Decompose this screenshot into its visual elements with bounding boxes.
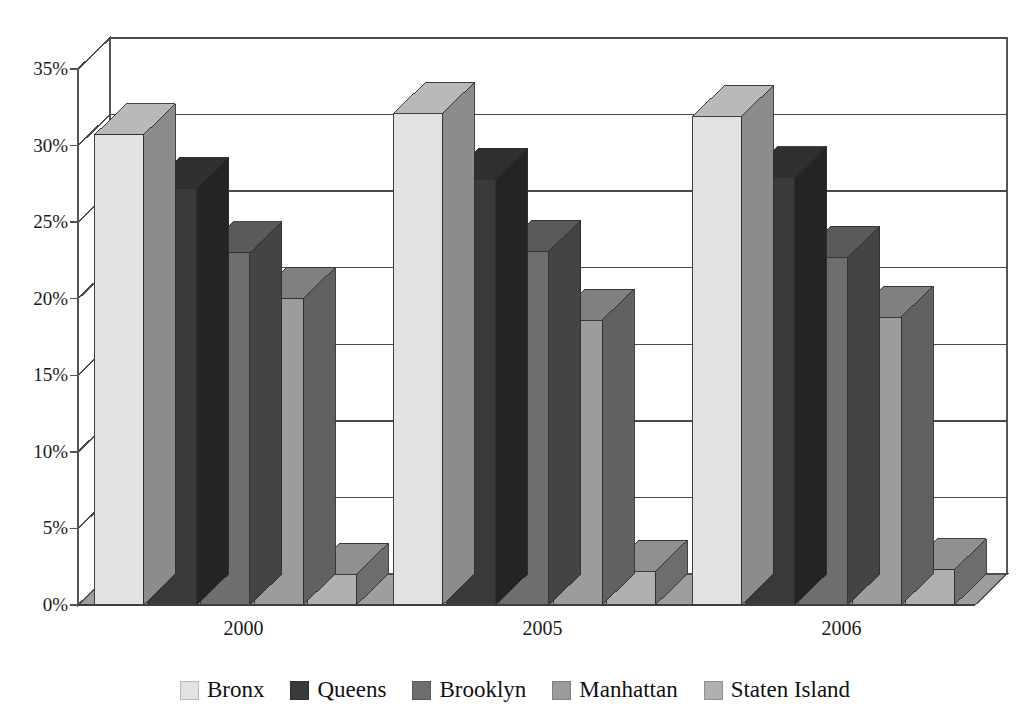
bar-side-face	[549, 220, 581, 605]
bar-side-face	[143, 104, 175, 605]
legend-item-queens[interactable]: Queens	[290, 677, 386, 703]
legend-item-manhattan[interactable]: Manhattan	[552, 677, 677, 703]
bar-side-face	[303, 268, 335, 605]
y-axis-tick-label: 25%	[6, 212, 68, 231]
y-axis-tick-label: 0%	[6, 595, 68, 614]
y-axis-labels: 35%30%25%20%15%10%5%0%	[0, 0, 68, 660]
bar-front-face	[94, 135, 143, 605]
bar-front-face	[393, 113, 442, 605]
x-axis-tick-label: 2000	[164, 616, 324, 640]
bar-bronx-2000	[94, 104, 175, 605]
bar-side-face	[496, 148, 528, 605]
bar-side-face	[197, 157, 229, 605]
bar-bronx-2005	[393, 82, 474, 605]
y-axis-tick-label: 5%	[6, 518, 68, 537]
chart-canvas	[0, 0, 1030, 660]
chart-legend: BronxQueensBrooklynManhattanStaten Islan…	[0, 668, 1030, 712]
y-axis-tick-label: 30%	[6, 136, 68, 155]
bar-side-face	[741, 85, 773, 605]
bar-front-face	[692, 116, 741, 605]
bar-side-face	[442, 82, 474, 605]
x-axis-labels: 200020052006	[0, 616, 1030, 650]
legend-label: Manhattan	[579, 677, 677, 703]
legend-swatch-icon	[290, 681, 309, 700]
legend-label: Brooklyn	[439, 677, 526, 703]
legend-item-brooklyn[interactable]: Brooklyn	[412, 677, 526, 703]
legend-label: Queens	[317, 677, 386, 703]
x-axis-tick-label: 2005	[463, 616, 623, 640]
legend-item-bronx[interactable]: Bronx	[180, 677, 265, 703]
legend-swatch-icon	[180, 681, 199, 700]
y-axis-tick-label: 15%	[6, 365, 68, 384]
chart-screenshot: 35%30%25%20%15%10%5%0% 200020052006 Bron…	[0, 0, 1030, 721]
legend-swatch-icon	[552, 681, 571, 700]
legend-item-staten-island[interactable]: Staten Island	[704, 677, 850, 703]
legend-swatch-icon	[704, 681, 723, 700]
bar-side-face	[848, 226, 880, 605]
bar-chart-3d	[0, 0, 1030, 660]
legend-swatch-icon	[412, 681, 431, 700]
legend-label: Staten Island	[731, 677, 850, 703]
bar-side-face	[250, 222, 282, 605]
y-axis-tick-label: 35%	[6, 59, 68, 78]
x-axis-tick-label: 2006	[762, 616, 922, 640]
bar-side-face	[795, 147, 827, 605]
y-axis-tick-label: 10%	[6, 442, 68, 461]
legend-label: Bronx	[207, 677, 265, 703]
y-axis-tick-label: 20%	[6, 289, 68, 308]
bar-side-face	[602, 289, 634, 605]
bar-bronx-2006	[692, 85, 773, 605]
bar-side-face	[901, 286, 933, 605]
